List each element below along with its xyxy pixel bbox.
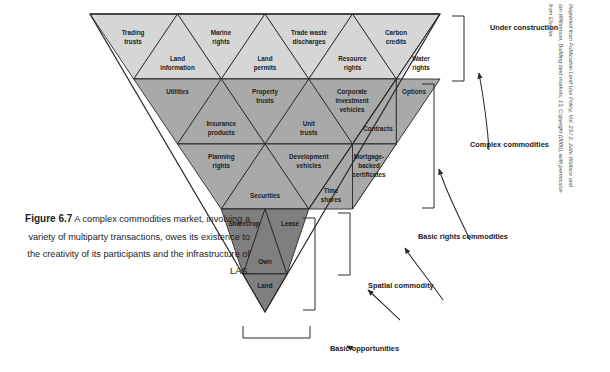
- label-corporate-iv: Corporate: [337, 88, 368, 96]
- label-time-shares: Time: [324, 187, 339, 194]
- label-securities: Securities: [250, 192, 281, 199]
- label-marine-rights-2: rights: [212, 38, 230, 46]
- figure-caption: Figure 6.7 A complex commodities market,…: [18, 210, 250, 280]
- label-planning-rights-2: rights: [213, 162, 231, 170]
- label-contracts: Contracts: [363, 125, 393, 132]
- label-land-permits: Land: [257, 55, 272, 62]
- label-planning-rights: Planning: [208, 153, 235, 161]
- label-property-trusts-2: trusts: [256, 97, 274, 104]
- arrow-to-basic-rights: [405, 248, 443, 300]
- label-basic-rights-commodities: Basic rights commodities: [418, 232, 508, 241]
- label-mortgage-backed-3: certificates: [352, 171, 386, 178]
- pyramid-row-5: [243, 274, 287, 312]
- label-water-rights-2: rights: [412, 64, 430, 72]
- label-land-information: Land: [170, 55, 185, 62]
- label-carbon-credits: Carbon: [385, 29, 407, 36]
- complex-commodities-pyramid: Trading trusts Marine rights Trade waste…: [0, 0, 610, 372]
- bracket-spatial-commodity: [303, 218, 315, 310]
- figure-6-7: Trading trusts Marine rights Trade waste…: [0, 0, 610, 372]
- bracket-basic-opportunities: [243, 326, 310, 338]
- label-own: Own: [258, 258, 272, 265]
- label-lease: Lease: [281, 220, 299, 227]
- label-land: Land: [257, 282, 272, 289]
- label-insurance-products: Insurance: [206, 120, 236, 127]
- label-development-vehicles-2: vehicles: [296, 162, 321, 169]
- label-mortgage-backed: Mortgage-: [354, 153, 384, 161]
- label-land-information-2: information: [160, 64, 195, 71]
- label-land-permits-2: permits: [254, 64, 277, 72]
- bracket-basic-rights: [338, 213, 350, 275]
- pyramid-row-1: [90, 14, 500, 85]
- arrow-to-complex-commodities: [439, 169, 470, 240]
- label-spatial-commodity: Spatial commodity: [368, 281, 435, 290]
- label-trade-waste: Trade waste: [291, 29, 328, 36]
- label-property-trusts: Property: [252, 88, 278, 96]
- label-corporate-iv-2: investment: [335, 97, 369, 104]
- label-time-shares-2: shares: [321, 196, 342, 203]
- label-basic-opportunities: Basic opportunities: [330, 344, 399, 353]
- label-resource-rights-2: rights: [344, 64, 362, 72]
- label-unit-trusts-2: trusts: [300, 129, 318, 136]
- label-water-rights: Water: [412, 55, 430, 62]
- label-utilities: Utilities: [166, 88, 189, 95]
- figure-credit: Reprinted from Publication Land Use Poli…: [546, 4, 575, 194]
- label-unit-trusts: Unit: [303, 120, 316, 127]
- figure-caption-label: Figure 6.7: [25, 213, 72, 224]
- label-mortgage-backed-2: backed: [358, 162, 380, 169]
- label-insurance-products-2: products: [208, 129, 235, 137]
- label-trading-trusts-2: trusts: [124, 38, 142, 45]
- label-trade-waste-2: discharges: [292, 38, 326, 46]
- label-resource-rights: Resource: [338, 55, 367, 62]
- label-options: Options: [402, 88, 426, 96]
- label-corporate-iv-3: vehicles: [340, 106, 365, 113]
- label-development-vehicles: Development: [289, 153, 329, 161]
- label-complex-commodities: Complex commodities: [470, 140, 549, 149]
- cell-land: [243, 274, 287, 312]
- label-marine-rights: Marine: [211, 29, 232, 36]
- label-carbon-credits-2: credits: [386, 38, 407, 45]
- label-trading-trusts: Trading: [122, 29, 145, 37]
- arrow-to-spatial-commodity: [368, 290, 400, 320]
